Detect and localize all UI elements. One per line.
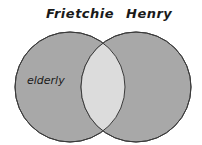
elderly-label: elderly bbox=[27, 74, 65, 87]
frietchie-title: Frietchie bbox=[46, 6, 114, 21]
henry-title: Henry bbox=[126, 6, 172, 21]
venn-diagram bbox=[0, 0, 202, 145]
